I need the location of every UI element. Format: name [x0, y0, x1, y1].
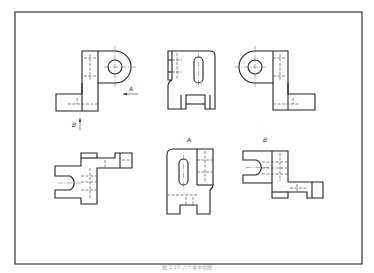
view-arrow-b: B: [72, 118, 81, 130]
view-arrow-a: A: [123, 85, 138, 95]
svg-text:A: A: [186, 136, 191, 143]
orthographic-views-drawing: A B: [0, 0, 374, 273]
view-rear-a: A: [167, 136, 213, 214]
svg-text:A: A: [128, 85, 133, 92]
svg-text:B: B: [263, 136, 267, 143]
svg-text:B: B: [72, 121, 76, 128]
view-bottom-b: B: [243, 136, 323, 198]
view-left: [168, 51, 215, 109]
view-right: [235, 46, 315, 110]
view-front: [56, 46, 136, 111]
figure-caption: 图 2-15 六个基本视图: [0, 263, 374, 270]
view-top: [55, 153, 132, 204]
